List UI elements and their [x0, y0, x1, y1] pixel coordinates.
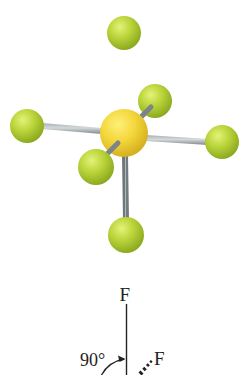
- fluorine-atom-top: [107, 16, 141, 50]
- hashed-wedge-bond: [140, 361, 152, 374]
- bond-right: [146, 135, 208, 145]
- ball-and-stick-model: [10, 16, 239, 253]
- fluorine-atom-left: [10, 109, 44, 143]
- fluorine-atom-front-left: [78, 149, 114, 185]
- label-bond-angle: 90°: [80, 350, 105, 370]
- label-top-fluorine: F: [120, 284, 131, 305]
- structure-diagram: F 90° F: [80, 284, 165, 375]
- sf6-figure: F 90° F: [0, 0, 244, 375]
- bond-left: [42, 123, 102, 134]
- fluorine-atom-right: [205, 125, 239, 159]
- label-wedge-fluorine: F: [154, 348, 165, 369]
- bond-bottom: [125, 155, 126, 220]
- arrowhead-icon: [118, 356, 126, 363]
- sulfur-atom-central: [100, 109, 148, 157]
- fluorine-atom-bottom: [108, 217, 144, 253]
